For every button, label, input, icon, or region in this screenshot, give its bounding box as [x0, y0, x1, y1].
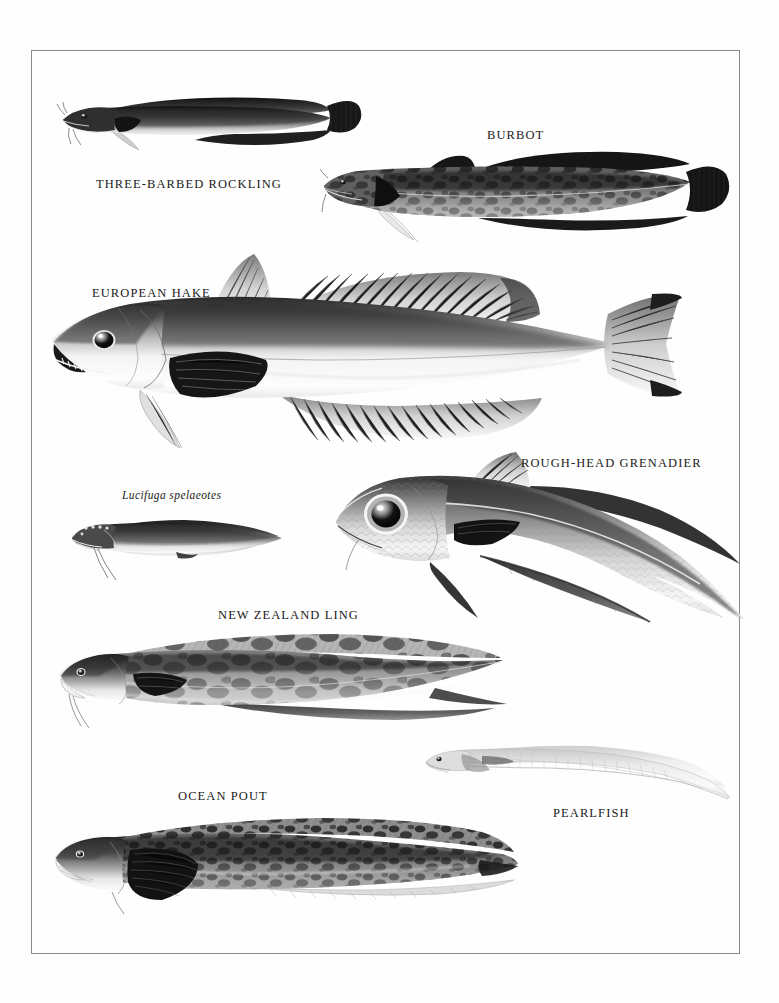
hake-anal-fin: [278, 394, 542, 442]
grenadier-pectoral-fin: [454, 519, 520, 545]
illustration-plate: THREE-BARBED ROCKLING: [0, 0, 779, 1003]
label-european-hake: EUROPEAN HAKE: [92, 286, 211, 301]
ling-eye: [78, 669, 85, 675]
pout-pectoral-fin: [127, 849, 198, 900]
figure-burbot: [318, 142, 742, 246]
figure-european-hake: [40, 248, 704, 452]
pearlfish-eye: [436, 757, 441, 761]
lucifuga-spelaeotes-illustration: [64, 508, 298, 584]
figure-new-zealand-ling: [55, 628, 509, 738]
figure-rough-head-grenadier: [330, 452, 744, 630]
rockling-eye: [81, 113, 87, 118]
rough-head-grenadier-illustration: [330, 452, 744, 630]
hake-caudal-fin: [604, 294, 682, 397]
grenadier-pelvic-fin: [430, 562, 478, 618]
burbot-eye: [340, 180, 346, 185]
ocean-pout-illustration: [50, 808, 520, 922]
pearlfish-illustration: [420, 736, 732, 804]
pout-barbel: [112, 892, 124, 914]
ling-anal-fin: [205, 702, 495, 720]
pearlfish-body: [426, 749, 730, 798]
grenadier-barbel: [346, 540, 358, 570]
label-rough-head-grenadier: ROUGH-HEAD GRENADIER: [521, 456, 702, 471]
pout-eye: [77, 851, 83, 856]
label-burbot: BURBOT: [487, 128, 544, 143]
lucifuga-pelvic-filaments: [94, 548, 116, 580]
hake-head: [54, 304, 167, 390]
pout-head: [56, 837, 126, 894]
ling-head: [61, 654, 129, 704]
ling-tail-taper: [429, 688, 507, 704]
figure-pearlfish: [420, 736, 732, 804]
label-ocean-pout: OCEAN POUT: [178, 789, 268, 804]
ling-barbels: [69, 694, 89, 728]
figure-ocean-pout: [50, 808, 520, 922]
grenadier-eye: [372, 501, 401, 528]
rockling-head: [63, 107, 117, 133]
new-zealand-ling-illustration: [55, 628, 509, 738]
burbot-illustration: [318, 142, 742, 246]
lucifuga-head: [72, 524, 116, 550]
european-hake-illustration: [40, 248, 704, 452]
label-pearlfish: PEARLFISH: [553, 806, 630, 821]
grenadier-head: [336, 479, 450, 570]
hake-pelvic-fin: [140, 390, 182, 448]
figure-lucifuga-spelaeotes: [64, 508, 298, 584]
label-new-zealand-ling: NEW ZEALAND LING: [218, 608, 359, 623]
hake-eye: [95, 332, 114, 348]
label-three-barbed-rockling: THREE-BARBED ROCKLING: [96, 177, 282, 192]
label-lucifuga-spelaeotes: Lucifuga spelaeotes: [122, 489, 221, 501]
